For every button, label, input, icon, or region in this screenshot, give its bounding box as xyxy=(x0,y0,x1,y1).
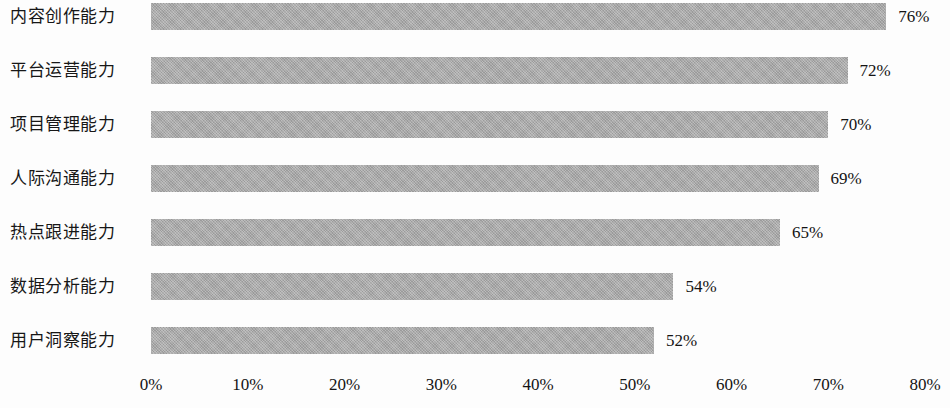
bar xyxy=(151,165,819,192)
x-axis-tick-label: 30% xyxy=(426,372,457,398)
bar-value-label: 69% xyxy=(831,165,862,192)
bar-row: 项目管理能力70% xyxy=(0,111,950,165)
x-axis-tick-label: 60% xyxy=(716,372,747,398)
bar xyxy=(151,273,673,300)
bar-value-label: 52% xyxy=(666,327,697,354)
x-axis-tick-label: 20% xyxy=(329,372,360,398)
x-axis-tick-label: 40% xyxy=(522,372,553,398)
bar-row: 平台运营能力72% xyxy=(0,57,950,111)
category-label: 内容创作能力 xyxy=(0,3,141,30)
bar-track: 65% xyxy=(151,219,925,246)
bar-track: 54% xyxy=(151,273,925,300)
bar xyxy=(151,3,886,30)
bar-track: 70% xyxy=(151,111,925,138)
category-label: 用户洞察能力 xyxy=(0,327,141,354)
bar xyxy=(151,111,828,138)
bar-value-label: 54% xyxy=(685,273,716,300)
x-axis-tick-label: 10% xyxy=(232,372,263,398)
category-label: 热点跟进能力 xyxy=(0,219,141,246)
x-axis-tick-label: 0% xyxy=(140,372,163,398)
category-label: 项目管理能力 xyxy=(0,111,141,138)
bar xyxy=(151,219,780,246)
bar-row: 内容创作能力76% xyxy=(0,3,950,57)
x-axis: 0%10%20%30%40%50%60%70%80% xyxy=(0,372,950,408)
bar-track: 69% xyxy=(151,165,925,192)
bar-row: 人际沟通能力69% xyxy=(0,165,950,219)
x-axis-tick-label: 50% xyxy=(619,372,650,398)
bar-value-label: 72% xyxy=(860,57,891,84)
x-axis-tick-label: 70% xyxy=(813,372,844,398)
bar-track: 52% xyxy=(151,327,925,354)
x-axis-tick-label: 80% xyxy=(909,372,940,398)
bar-value-label: 65% xyxy=(792,219,823,246)
bar xyxy=(151,57,848,84)
category-label: 平台运营能力 xyxy=(0,57,141,84)
bar-row: 热点跟进能力65% xyxy=(0,219,950,273)
category-label: 数据分析能力 xyxy=(0,273,141,300)
bar-track: 72% xyxy=(151,57,925,84)
category-label: 人际沟通能力 xyxy=(0,165,141,192)
bar xyxy=(151,327,654,354)
bar-row: 数据分析能力54% xyxy=(0,273,950,327)
bar-value-label: 70% xyxy=(840,111,871,138)
bar-value-label: 76% xyxy=(898,3,929,30)
horizontal-bar-chart: 内容创作能力76%平台运营能力72%项目管理能力70%人际沟通能力69%热点跟进… xyxy=(0,0,950,408)
bar-track: 76% xyxy=(151,3,925,30)
